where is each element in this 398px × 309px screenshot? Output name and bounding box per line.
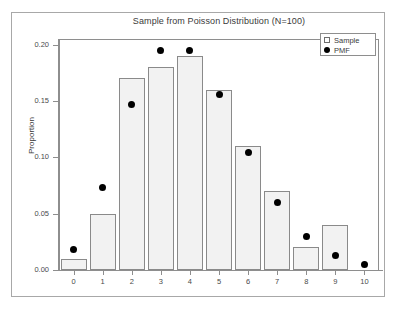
y-tick-label: 0.20 bbox=[9, 40, 49, 49]
y-tick-label: 0.10 bbox=[9, 152, 49, 161]
x-tick-mark bbox=[161, 271, 162, 275]
bar bbox=[322, 225, 348, 270]
x-tick-mark bbox=[132, 271, 133, 275]
x-tick-mark bbox=[364, 271, 365, 275]
y-axis-line bbox=[58, 39, 59, 271]
x-tick-label: 4 bbox=[175, 277, 205, 286]
bar bbox=[293, 247, 319, 270]
y-tick-mark bbox=[53, 157, 58, 158]
pmf-point bbox=[274, 199, 281, 206]
bar bbox=[177, 56, 203, 270]
x-tick-mark bbox=[74, 271, 75, 275]
x-tick-mark bbox=[335, 271, 336, 275]
pmf-point bbox=[216, 91, 223, 98]
y-tick-label: 0.05 bbox=[9, 209, 49, 218]
y-tick-mark bbox=[53, 270, 58, 271]
chart-legend[interactable]: Sample PMF bbox=[320, 33, 376, 56]
bar bbox=[148, 67, 174, 270]
x-tick-label: 7 bbox=[262, 277, 292, 286]
open-square-icon bbox=[324, 37, 330, 43]
legend-entry-pmf[interactable]: PMF bbox=[324, 45, 350, 55]
x-tick-label: 8 bbox=[291, 277, 321, 286]
y-tick-mark bbox=[53, 214, 58, 215]
y-tick-mark bbox=[53, 45, 58, 46]
filled-circle-icon bbox=[324, 47, 330, 53]
pmf-point bbox=[303, 233, 310, 240]
x-tick-label: 10 bbox=[349, 277, 379, 286]
bar bbox=[61, 259, 87, 270]
pmf-point bbox=[332, 252, 339, 259]
x-tick-mark bbox=[190, 271, 191, 275]
x-tick-label: 0 bbox=[59, 277, 89, 286]
y-tick-mark bbox=[53, 101, 58, 102]
x-tick-label: 5 bbox=[204, 277, 234, 286]
y-tick-label: 0.00 bbox=[9, 265, 49, 274]
x-tick-mark bbox=[103, 271, 104, 275]
y-axis-title: Proportion bbox=[27, 96, 36, 176]
legend-entry-sample[interactable]: Sample bbox=[324, 35, 359, 45]
x-tick-label: 2 bbox=[117, 277, 147, 286]
x-tick-mark bbox=[306, 271, 307, 275]
x-tick-mark bbox=[248, 271, 249, 275]
pmf-point bbox=[361, 261, 368, 268]
bar bbox=[206, 90, 232, 270]
x-tick-mark bbox=[219, 271, 220, 275]
y-tick-label: 0.15 bbox=[9, 96, 49, 105]
bar bbox=[90, 214, 116, 270]
x-tick-mark bbox=[277, 271, 278, 275]
x-tick-label: 3 bbox=[146, 277, 176, 286]
chart-title: Sample from Poisson Distribution (N=100) bbox=[59, 16, 379, 26]
x-tick-label: 6 bbox=[233, 277, 263, 286]
x-tick-label: 9 bbox=[320, 277, 350, 286]
bar bbox=[235, 146, 261, 270]
pmf-point bbox=[245, 149, 252, 156]
x-tick-label: 1 bbox=[88, 277, 118, 286]
legend-label-pmf: PMF bbox=[334, 46, 350, 55]
legend-label-sample: Sample bbox=[334, 36, 359, 45]
figure-canvas: Sample from Poisson Distribution (N=100)… bbox=[0, 0, 398, 309]
